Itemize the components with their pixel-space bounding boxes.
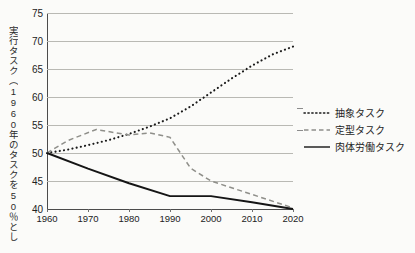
y-axis-tick-labels: 7570656055504540 <box>18 13 43 209</box>
x-tickmark-2020 <box>293 209 294 212</box>
legend-line-dashed-icon <box>303 125 331 135</box>
x-axis-tick-labels: 1960197019801990200020102020 <box>47 213 293 229</box>
legend-label-abstract: 抽象タスク <box>331 105 385 120</box>
series-line-manual <box>47 153 293 209</box>
y-tick-60: 60 <box>21 92 43 103</box>
x-tickmark-2000 <box>211 209 212 212</box>
legend: 抽象タスク 定型タスク 肉体労働タスク <box>303 104 413 155</box>
y-tick-50: 50 <box>21 148 43 159</box>
legend-label-routine: 定型タスク <box>331 122 385 137</box>
x-tick-1980: 1980 <box>112 213 146 224</box>
y-tick-65: 65 <box>21 64 43 75</box>
x-tick-2020: 2020 <box>276 213 310 224</box>
legend-line-dotted-icon <box>303 108 331 118</box>
legend-item-manual[interactable]: 肉体労働タスク <box>303 138 413 155</box>
x-tick-2000: 2000 <box>194 213 228 224</box>
x-tickmark-1990 <box>170 209 171 212</box>
y-tick-55: 55 <box>21 120 43 131</box>
x-tickmark-2010 <box>252 209 253 212</box>
legend-line-solid-icon <box>303 142 331 152</box>
x-tick-1990: 1990 <box>153 213 187 224</box>
y-tick-45: 45 <box>21 176 43 187</box>
legend-label-manual: 肉体労働タスク <box>331 139 405 154</box>
y-tick-75: 75 <box>21 8 43 19</box>
series-layer <box>47 13 293 209</box>
x-tickmark-1980 <box>129 209 130 212</box>
y-tick-70: 70 <box>21 36 43 47</box>
x-tick-1960: 1960 <box>30 213 64 224</box>
legend-item-routine[interactable]: 定型タスク <box>303 121 413 138</box>
x-tickmark-1960 <box>47 209 48 212</box>
y-axis-title: 実行タスク（1960年のタスクを50％としたとき） <box>2 26 18 241</box>
x-tickmark-1970 <box>88 209 89 212</box>
plot-area <box>47 13 293 209</box>
chart-figure: 実行タスク（1960年のタスクを50％としたとき） 75706560555045… <box>0 0 415 253</box>
legend-item-abstract[interactable]: 抽象タスク <box>303 104 413 121</box>
x-tick-1970: 1970 <box>71 213 105 224</box>
x-tick-2010: 2010 <box>235 213 269 224</box>
